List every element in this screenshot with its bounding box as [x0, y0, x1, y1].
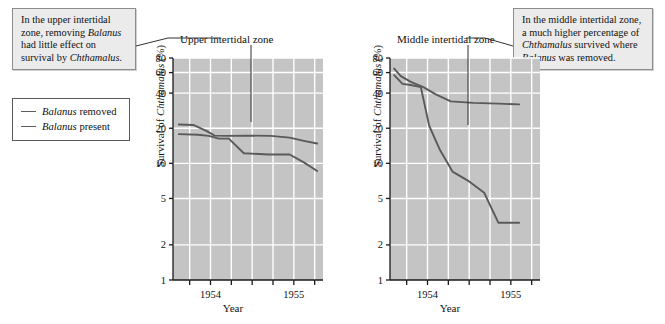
- legend-label-removed: Balanus removed: [42, 104, 116, 119]
- y-tick-label: 1: [378, 275, 383, 286]
- plot-background: [390, 58, 540, 280]
- y-tick-label: 20: [156, 123, 167, 134]
- chart-panel-middle-intertidal: Middle intertidal zone Survival of Chtha…: [345, 0, 560, 324]
- y-tick-label: 5: [161, 193, 166, 204]
- y-tick-label: 60: [156, 67, 167, 78]
- x-tick-label: 1955: [500, 289, 521, 300]
- figure-root: In the upper intertidal zone, removing B…: [0, 0, 665, 324]
- legend-swatch-removed: [21, 111, 36, 112]
- y-tick-label: 20: [373, 123, 384, 134]
- x-tick-label: 1954: [417, 289, 439, 300]
- upper-zone-callout: In the upper intertidal zone, removing B…: [12, 8, 136, 70]
- y-tick-label: 10: [156, 158, 167, 169]
- y-tick-label: 80: [373, 53, 384, 64]
- y-tick-label: 1: [161, 275, 166, 286]
- upper-zone-callout-text: In the upper intertidal zone, removing B…: [21, 14, 122, 63]
- y-tick-label: 5: [378, 193, 383, 204]
- legend-swatch-present: [21, 126, 36, 127]
- legend: Balanus removed Balanus present: [12, 98, 130, 141]
- x-tick-label: 1955: [283, 289, 304, 300]
- y-tick-label: 2: [378, 239, 383, 250]
- y-tick-label: 60: [373, 67, 384, 78]
- plot-area-upper: 806040201052119541955: [128, 0, 343, 324]
- y-tick-label: 40: [373, 88, 384, 99]
- plot-background: [173, 58, 323, 280]
- legend-label-present: Balanus present: [42, 119, 110, 134]
- y-tick-label: 10: [373, 158, 384, 169]
- plot-area-middle: 806040201052119541955: [345, 0, 560, 324]
- chart-panel-upper-intertidal: Upper intertidal zone Survival of Chtham…: [128, 0, 343, 324]
- legend-item-balanus-removed: Balanus removed: [21, 104, 121, 119]
- y-tick-label: 80: [156, 53, 167, 64]
- y-tick-label: 40: [156, 88, 167, 99]
- legend-item-balanus-present: Balanus present: [21, 119, 121, 134]
- x-tick-label: 1954: [200, 289, 222, 300]
- y-tick-label: 2: [161, 239, 166, 250]
